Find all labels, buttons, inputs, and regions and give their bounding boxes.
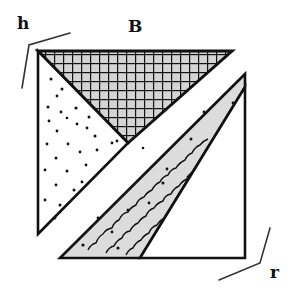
label-r: r <box>270 264 279 281</box>
label-b: B <box>128 18 142 35</box>
label-h: h <box>17 15 29 32</box>
dissection-svg <box>0 0 294 296</box>
diagram-canvas: h B r <box>0 0 294 296</box>
